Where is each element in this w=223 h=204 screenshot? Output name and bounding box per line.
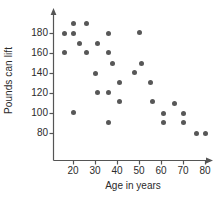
x-axis-title: Age in years (53, 180, 213, 191)
y-tick-label-100: 100 (14, 108, 48, 118)
x-tick-label-20: 20 (61, 166, 85, 176)
x-tick-label-80: 80 (193, 166, 217, 176)
data-point (172, 101, 177, 106)
data-point (71, 110, 76, 115)
data-point (95, 41, 100, 46)
x-tick-label-30: 30 (83, 166, 107, 176)
x-tick-label-50: 50 (127, 166, 151, 176)
y-tick-label-180: 180 (14, 28, 48, 38)
x-tick-label-70: 70 (171, 166, 195, 176)
data-point (181, 120, 186, 125)
y-tick-label-80: 80 (14, 128, 48, 138)
data-point (106, 50, 111, 55)
data-point (62, 31, 67, 36)
data-point (194, 131, 199, 136)
plot-area (53, 8, 213, 160)
data-point (148, 80, 153, 85)
y-tick-label-140: 140 (14, 68, 48, 78)
data-point (77, 41, 82, 46)
x-axis-tick-labels: 20304050607080 (0, 166, 223, 180)
y-tick-label-160: 160 (14, 48, 48, 58)
scatter-plot-figure: Pounds can lift 18016014012010080 203040… (0, 0, 223, 204)
data-point (117, 99, 122, 104)
data-point (84, 50, 89, 55)
data-point (161, 111, 166, 116)
y-tick-label-120: 120 (14, 88, 48, 98)
y-axis-tick-labels: 18016014012010080 (14, 0, 48, 170)
data-point (150, 99, 155, 104)
data-point (181, 111, 186, 116)
x-tick-label-40: 40 (105, 166, 129, 176)
data-point (106, 120, 111, 125)
x-tick-label-60: 60 (149, 166, 173, 176)
x-axis-tick-marks (74, 161, 206, 165)
data-point (161, 120, 166, 125)
data-point (106, 31, 111, 36)
data-point (84, 21, 89, 26)
data-point (132, 70, 137, 75)
data-point (93, 71, 98, 76)
data-point (71, 31, 76, 36)
data-point (71, 21, 76, 26)
data-point (95, 90, 100, 95)
y-axis-title-text: Pounds can lift (4, 46, 15, 113)
data-point (106, 90, 111, 95)
data-point (139, 61, 144, 66)
data-point (110, 61, 115, 66)
data-point (137, 30, 142, 35)
data-point (203, 131, 208, 136)
data-point (62, 50, 67, 55)
data-point (117, 80, 122, 85)
